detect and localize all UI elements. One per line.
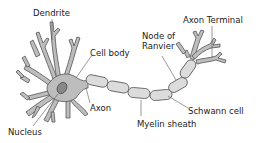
label-dendrite: Dendrite — [33, 9, 70, 18]
neuron-diagram: Dendrite Cell body Axon Nucleus Node of … — [0, 0, 258, 143]
label-nucleus: Nucleus — [8, 128, 42, 137]
label-axon-terminal: Axon Terminal — [183, 16, 243, 25]
label-node-of-ranvier-line2: Ranvier — [142, 42, 174, 51]
label-node-of-ranvier-line1: Node of — [142, 32, 175, 41]
label-myelin-sheath: Myelin sheath — [137, 120, 196, 129]
cell-body-shape — [47, 74, 88, 102]
label-axon: Axon — [90, 104, 111, 113]
label-schwann-cell: Schwann cell — [188, 107, 244, 116]
label-cell-body: Cell body — [90, 49, 130, 58]
axon-terminal-branches — [176, 30, 226, 64]
myelin-segments — [85, 58, 198, 101]
